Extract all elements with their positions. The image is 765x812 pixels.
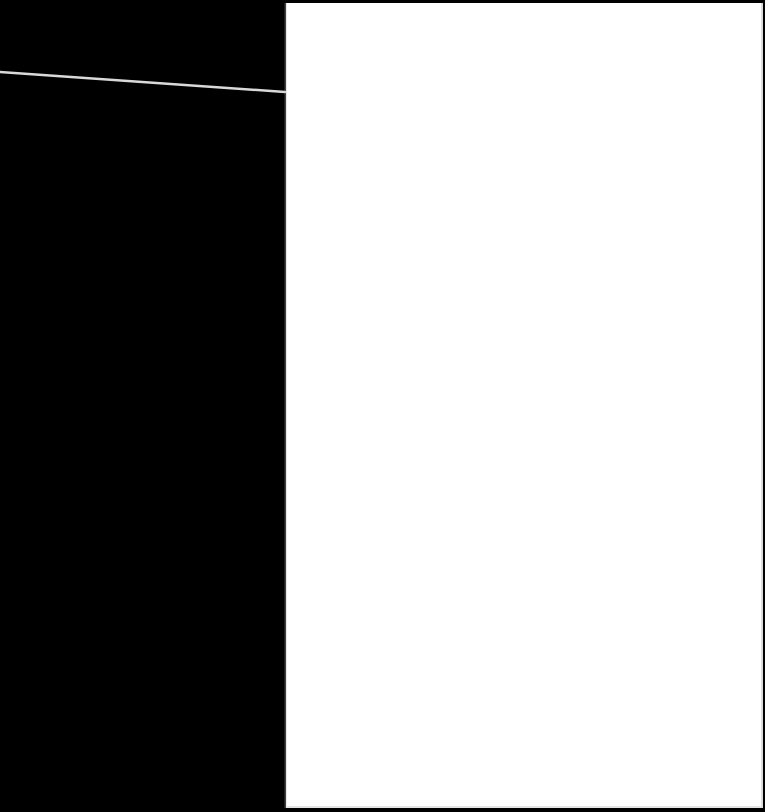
photo-scene bbox=[0, 0, 765, 812]
blank-paper-sheet bbox=[286, 3, 763, 808]
thin-wire-line bbox=[0, 0, 290, 120]
